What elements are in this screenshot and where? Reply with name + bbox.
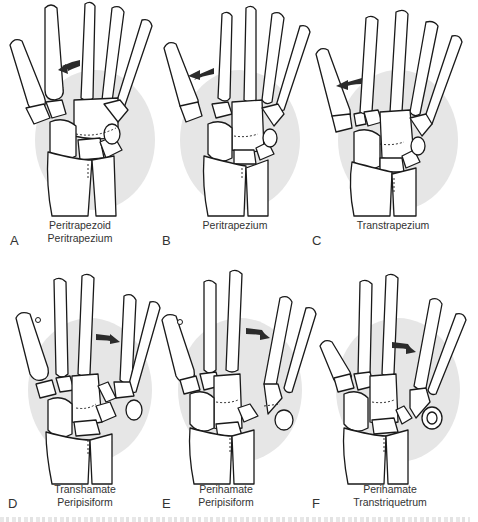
caption-line-1: Transtrapezium xyxy=(353,219,433,232)
panel-letter-e: E xyxy=(162,497,171,510)
wrist-illustration-e xyxy=(160,260,318,485)
panel-letter-a: A xyxy=(10,234,19,247)
caption-line-1: Perihamate xyxy=(350,483,430,496)
panel-d: D Transhamate Peripisiform xyxy=(0,260,160,515)
caption-line-2: Transtriquetrum xyxy=(350,496,430,509)
caption-line-2: Peripisiform xyxy=(186,496,266,509)
panel-e: E Perihamate Peripisiform xyxy=(160,260,318,515)
panel-f: F Perihamate Transtriquetrum xyxy=(318,260,478,515)
panel-letter-f: F xyxy=(312,497,320,510)
caption-line-1: Peritrapezoid xyxy=(40,219,120,232)
panel-b: B Peritrapezium xyxy=(160,0,318,250)
panel-caption-d: Transhamate Peripisiform xyxy=(45,483,125,509)
panel-a: A Peritrapezoid Peritrapezium xyxy=(0,0,160,250)
wrist-illustration-b xyxy=(160,0,318,215)
panel-c: C Transtrapezium xyxy=(318,0,478,250)
wrist-illustration-f xyxy=(318,260,478,485)
caption-line-2: Peritrapezium xyxy=(40,232,120,245)
panel-caption-f: Perihamate Transtriquetrum xyxy=(350,483,430,509)
panel-letter-d: D xyxy=(8,497,17,510)
panel-caption-e: Perihamate Peripisiform xyxy=(186,483,266,509)
truncated-figure-caption xyxy=(0,515,478,522)
wrist-illustration-c xyxy=(318,0,478,215)
caption-line-1: Transhamate xyxy=(45,483,125,496)
caption-line-1: Perihamate xyxy=(186,483,266,496)
wrist-illustration-a xyxy=(0,0,160,215)
panel-letter-b: B xyxy=(162,234,171,247)
panel-letter-c: C xyxy=(312,234,321,247)
caption-line-1: Peritrapezium xyxy=(195,219,275,232)
panel-caption-a: Peritrapezoid Peritrapezium xyxy=(40,219,120,245)
panel-caption-c: Transtrapezium xyxy=(353,219,433,232)
panel-caption-b: Peritrapezium xyxy=(195,219,275,232)
wrist-illustration-d xyxy=(0,260,160,485)
caption-line-2: Peripisiform xyxy=(45,496,125,509)
